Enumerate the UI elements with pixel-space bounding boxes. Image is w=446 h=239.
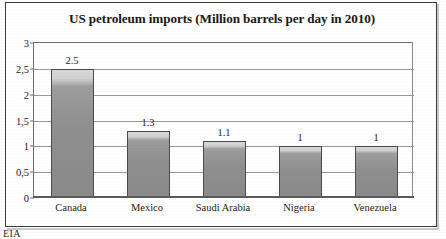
bar-group: 2.5 [51, 43, 94, 198]
y-axis-label: 1 [24, 141, 29, 152]
x-axis-label: Venezuela [337, 202, 413, 213]
source-caption: EIA [3, 228, 21, 239]
y-axis-label: 0,5 [16, 167, 29, 178]
chart-title: US petroleum imports (Million barrels pe… [6, 11, 438, 27]
bar[interactable] [51, 69, 94, 198]
plot-area: 00,511,522,53 2.51.31.111 [33, 42, 413, 197]
y-axis-label: 1,5 [16, 115, 29, 126]
x-axis-label: Canada [33, 202, 109, 213]
y-axis-label: 0 [24, 193, 29, 204]
x-axis-label: Nigeria [261, 202, 337, 213]
frame-shadow-bottom [7, 228, 439, 230]
bar-value-label: 2.5 [65, 55, 78, 66]
bar[interactable] [203, 141, 246, 198]
bar-group: 1 [279, 43, 322, 198]
bar-series: 2.51.31.111 [34, 43, 414, 198]
gridline [34, 198, 414, 199]
x-axis-label: Mexico [109, 202, 185, 213]
bar[interactable] [279, 146, 322, 198]
bar[interactable] [355, 146, 398, 198]
plot-right-edge [412, 42, 413, 197]
bar-group: 1.3 [127, 43, 170, 198]
y-axis-label: 3 [24, 38, 29, 49]
bar-value-label: 1.1 [217, 127, 230, 138]
bar-group: 1 [355, 43, 398, 198]
bar[interactable] [127, 131, 170, 198]
x-axis-labels: CanadaMexicoSaudi ArabiaNigeriaVenezuela [33, 202, 414, 222]
y-axis-label: 2 [24, 89, 29, 100]
frame-shadow-right [437, 4, 439, 230]
x-axis-line [33, 196, 414, 198]
bar-group: 1.1 [203, 43, 246, 198]
bar-value-label: 1.3 [141, 117, 154, 128]
bar-value-label: 1 [297, 132, 302, 143]
x-axis-label: Saudi Arabia [185, 202, 261, 213]
y-axis-label: 2,5 [16, 63, 29, 74]
bar-value-label: 1 [373, 132, 378, 143]
chart-page: US petroleum imports (Million barrels pe… [0, 0, 446, 239]
chart-frame: US petroleum imports (Million barrels pe… [5, 2, 437, 227]
